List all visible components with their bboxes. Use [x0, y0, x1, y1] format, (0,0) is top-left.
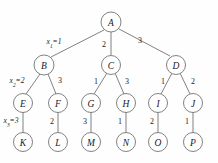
tree-svg-canvas: ABCDEFGHIJKLMNOP x1=123x2=231312x3=32312… [0, 0, 218, 163]
tree-edge-b-e [26, 74, 40, 94]
node-label-l: L [54, 138, 60, 148]
edge-label-j-p: 1 [185, 117, 189, 126]
edge-label-c-h: 3 [125, 77, 129, 86]
nodes-layer: ABCDEFGHIJKLMNOP [14, 12, 203, 152]
node-label-f: F [54, 99, 61, 109]
tree-diagram: ABCDEFGHIJKLMNOP x1=123x2=231312x3=32312… [0, 0, 218, 163]
edge-label-d-i: 1 [161, 77, 165, 86]
tree-node-p: P [184, 133, 203, 152]
edge-label-i-o: 2 [150, 117, 154, 126]
edge-label-e-k: x3=3 [3, 116, 19, 128]
tree-node-b: B [34, 55, 54, 75]
edge-label-a-d: 3 [138, 36, 142, 45]
tree-node-i: I [149, 94, 168, 113]
edge-label-g-m: 3 [83, 117, 87, 126]
edge-label-b-f: 3 [58, 76, 62, 85]
edge-label-f-l: 2 [50, 117, 54, 126]
node-label-h: H [122, 99, 131, 109]
edge-labels-layer: x1=123x2=231312x3=323121 [3, 36, 196, 128]
node-label-o: O [155, 138, 162, 148]
node-label-c: C [108, 61, 115, 71]
edge-label-a-b: x1=1 [46, 37, 62, 49]
edge-label-b-e: x2=2 [9, 76, 25, 88]
node-label-b: B [41, 61, 47, 71]
node-label-k: K [19, 138, 27, 148]
tree-node-n: N [117, 133, 136, 152]
edge-label-d-j: 2 [191, 77, 195, 86]
tree-node-m: M [82, 133, 101, 152]
tree-node-d: D [167, 56, 186, 75]
node-label-e: E [19, 99, 26, 109]
tree-node-f: F [49, 94, 68, 113]
tree-node-c: C [102, 56, 121, 75]
tree-edge-b-f [48, 74, 56, 94]
edge-label-c-g: 1 [94, 77, 98, 86]
node-label-a: A [107, 18, 114, 28]
tree-node-l: L [49, 133, 68, 152]
node-label-g: G [88, 99, 95, 109]
edge-label-a-c: 2 [102, 40, 106, 49]
tree-node-o: O [149, 133, 168, 152]
tree-node-k: K [14, 133, 33, 152]
tree-node-a: A [101, 12, 121, 32]
node-label-p: P [189, 138, 196, 148]
tree-edge-c-h [115, 73, 124, 94]
tree-node-g: G [82, 94, 101, 113]
node-label-m: M [86, 138, 96, 148]
node-label-n: N [122, 138, 130, 148]
node-label-d: D [172, 61, 180, 71]
tree-edge-a-d [119, 29, 170, 56]
tree-node-j: J [184, 94, 203, 113]
edge-label-h-n: 1 [118, 117, 122, 126]
tree-node-h: H [117, 94, 136, 113]
tree-node-e: E [14, 94, 33, 113]
tree-edge-d-j [180, 73, 190, 94]
